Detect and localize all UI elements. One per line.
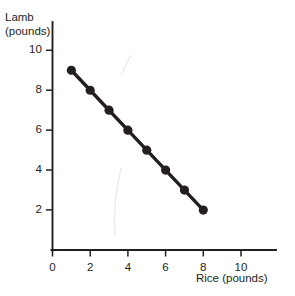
data-point [142, 146, 151, 155]
x-tick-label-6: 6 [162, 262, 169, 274]
y-axis-title-line2: (pounds) [5, 25, 50, 39]
y-tick-label-10: 10 [22, 45, 42, 57]
x-tick-marks [53, 250, 242, 257]
plot-area [0, 0, 295, 296]
data-point [104, 106, 113, 115]
data-point [67, 66, 76, 75]
x-tick-label-2: 2 [87, 262, 94, 274]
data-point [86, 86, 95, 95]
x-tick-label-4: 4 [125, 262, 132, 274]
data-point [161, 166, 170, 175]
data-point [123, 126, 132, 135]
y-tick-label-6: 6 [22, 124, 42, 136]
y-axis-title-line1: Lamb [5, 11, 50, 25]
y-tick-label-8: 8 [22, 84, 42, 96]
x-axis-title: Rice (pounds) [196, 272, 268, 286]
x-tick-label-0: 0 [49, 262, 56, 274]
y-tick-label-4: 4 [22, 164, 42, 176]
data-point [199, 205, 208, 214]
y-tick-label-2: 2 [22, 204, 42, 216]
scan-fold-artifact [114, 168, 121, 236]
y-axis-title: Lamb (pounds) [5, 11, 50, 38]
chart-figure: 10 8 6 4 2 0 2 4 6 8 10 Lamb (pounds) Ri… [0, 0, 295, 296]
scan-fold-artifact-2 [122, 55, 131, 74]
data-point [180, 185, 189, 194]
